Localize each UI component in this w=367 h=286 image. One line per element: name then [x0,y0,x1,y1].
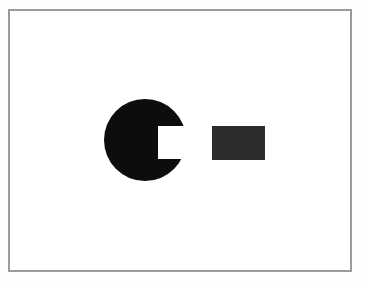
figure-canvas [0,0,367,286]
notched-disc-shape [104,99,186,181]
solid-rectangle-shape [212,126,265,160]
shapes-layer [0,0,367,286]
shapes-svg [0,0,367,286]
